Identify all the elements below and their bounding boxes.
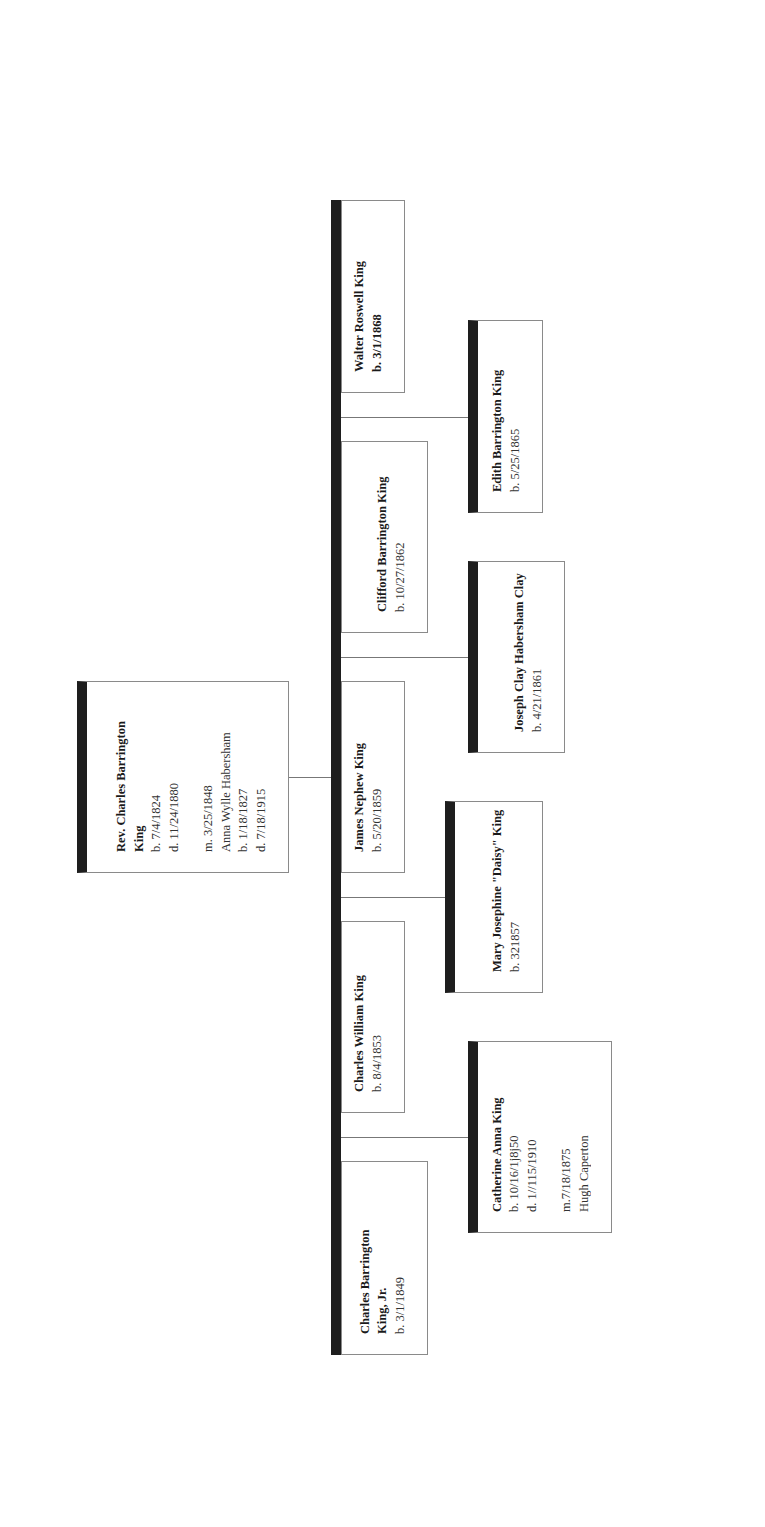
spouse-name: Anna Wylle Habersham	[218, 701, 236, 852]
person-box-joseph: Joseph Clay Habersham Clay b. 4/21/1861	[468, 561, 565, 753]
connector-catherine	[341, 1137, 468, 1138]
person-box-parent: Rev. Charles Barrington King b. 7/4/1824…	[77, 681, 289, 873]
person-box-walter: Walter Roswell King b. 3/1/1868	[341, 200, 405, 393]
birth-date: b. 5/25/1865	[507, 340, 525, 492]
connector-joseph	[341, 657, 468, 658]
person-name: Mary Josephine "Daisy" King	[489, 807, 507, 972]
person-name: Clifford Barrington King	[374, 472, 392, 612]
spouse-birth-date: b. 1/18/1827	[235, 701, 253, 852]
birth-date: b. 4/21/1861	[529, 581, 547, 732]
person-box-edith: Edith Barrington King b. 5/25/1865	[468, 320, 543, 513]
marriage-date: m.7/18/1875	[558, 1061, 576, 1212]
connector-edith	[341, 417, 468, 418]
person-name: Catherine Anna King	[489, 1061, 507, 1212]
person-name: Charles Barrington King, Jr.	[357, 1204, 392, 1334]
birth-date: b. 5/20/1859	[369, 701, 387, 852]
person-box-charles-jr: Charles Barrington King, Jr. b. 3/1/1849	[341, 1161, 428, 1355]
birth-date: b. 3/1/1849	[392, 1181, 410, 1334]
birth-date: b. 7/4/1824	[148, 701, 166, 852]
connector-parent	[289, 777, 331, 778]
person-name: Charles William King	[351, 941, 369, 1092]
connector-mary	[341, 897, 445, 898]
person-box-mary: Mary Josephine "Daisy" King b. 321857	[445, 801, 543, 993]
person-box-charles-william: Charles William King b. 8/4/1853	[341, 921, 405, 1113]
person-name: James Nephew King	[351, 701, 369, 852]
birth-date: b. 10/27/1862	[392, 461, 410, 612]
death-date: d. 1//115/1910	[524, 1061, 542, 1212]
person-name: Joseph Clay Habersham Clay	[511, 567, 529, 732]
sibling-spine	[331, 200, 341, 1355]
marriage-date: m. 3/25/1848	[200, 701, 218, 852]
spouse-name: Hugh Caperton	[576, 1061, 594, 1212]
person-box-clifford: Clifford Barrington King b. 10/27/1862	[341, 441, 428, 633]
birth-date: b. 10/16/1j8j50	[506, 1061, 524, 1212]
spouse-death-date: d. 7/18/1915	[253, 701, 271, 852]
person-box-content: Rev. Charles Barrington King b. 7/4/1824…	[87, 682, 288, 872]
person-box-james: James Nephew King b. 5/20/1859	[341, 681, 405, 873]
person-name: Walter Roswell King	[351, 220, 369, 372]
person-box-catherine: Catherine Anna King b. 10/16/1j8j50 d. 1…	[468, 1041, 612, 1233]
birth-date: b. 3/1/1868	[369, 220, 387, 372]
birth-date: b. 8/4/1853	[369, 941, 387, 1092]
death-date: d. 11/24/1880	[166, 701, 184, 852]
birth-date: b. 321857	[507, 821, 525, 972]
person-name: Rev. Charles Barrington King	[113, 701, 148, 852]
person-name: Edith Barrington King	[489, 340, 507, 492]
